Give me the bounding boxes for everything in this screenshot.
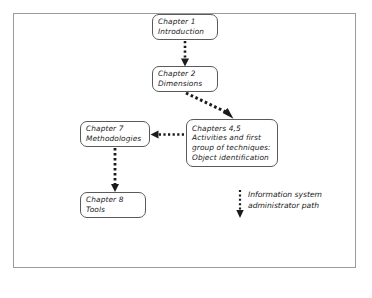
node-chapter-1-line-1: Chapter 1: [158, 17, 212, 27]
diagram-canvas: Chapter 1 Introduction Chapter 2 Dimensi…: [0, 0, 372, 298]
node-chapter-7[interactable]: Chapter 7 Methodologies: [80, 121, 150, 147]
node-chapters-4-5-line-3: group of techniques:: [192, 143, 272, 153]
node-chapter-8[interactable]: Chapter 8 Tools: [80, 192, 146, 218]
legend-line-1: Information system: [248, 190, 360, 201]
node-chapters-4-5[interactable]: Chapters 4,5 Activities and first group …: [186, 119, 278, 167]
node-chapter-1[interactable]: Chapter 1 Introduction: [152, 14, 218, 40]
node-chapter-2-line-2: Dimensions: [158, 79, 212, 89]
node-chapter-8-line-1: Chapter 8: [86, 195, 140, 205]
legend-line-2: administrator path: [248, 201, 360, 212]
node-chapter-1-line-2: Introduction: [158, 27, 212, 37]
diagram-frame: [13, 13, 356, 268]
node-chapter-2[interactable]: Chapter 2 Dimensions: [152, 66, 218, 92]
node-chapter-8-line-2: Tools: [86, 205, 140, 215]
legend: Information system administrator path: [248, 190, 360, 211]
node-chapters-4-5-line-2: Activities and first: [192, 133, 272, 143]
node-chapters-4-5-line-4: Object identification: [192, 153, 272, 163]
node-chapter-7-line-2: Methodologies: [86, 134, 144, 144]
node-chapter-2-line-1: Chapter 2: [158, 69, 212, 79]
node-chapters-4-5-line-1: Chapters 4,5: [192, 124, 272, 134]
node-chapter-7-line-1: Chapter 7: [86, 124, 144, 134]
